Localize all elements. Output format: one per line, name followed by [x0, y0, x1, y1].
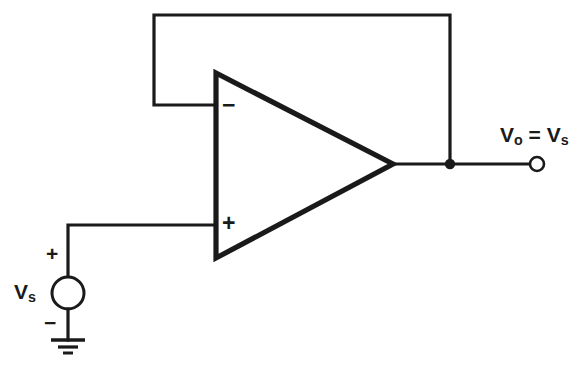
opamp-triangle	[216, 73, 393, 258]
source-input-wire	[68, 225, 216, 277]
source-minus-label: −	[44, 312, 56, 333]
source-voltage-label: Vs	[14, 281, 36, 302]
voltage-source-circle	[52, 277, 84, 309]
output-junction-dot	[445, 159, 455, 169]
output-equals-sign: =	[523, 123, 547, 146]
circuit-diagram-canvas: − + + − Vs Vo = Vs	[0, 0, 586, 373]
output-voltage-subscript: o	[514, 132, 523, 148]
circuit-schematic-svg	[0, 0, 586, 373]
output-voltage-symbol: V	[500, 123, 514, 146]
source-voltage-symbol: V	[14, 280, 28, 303]
opamp-inverting-input-label: −	[222, 94, 235, 117]
output-source-symbol: V	[547, 123, 561, 146]
opamp-noninverting-input-label: +	[222, 212, 235, 235]
output-voltage-label: Vo = Vs	[500, 124, 569, 145]
output-source-subscript: s	[561, 132, 569, 148]
source-plus-label: +	[46, 243, 58, 264]
output-terminal-icon	[530, 157, 544, 171]
source-voltage-subscript: s	[28, 289, 36, 305]
